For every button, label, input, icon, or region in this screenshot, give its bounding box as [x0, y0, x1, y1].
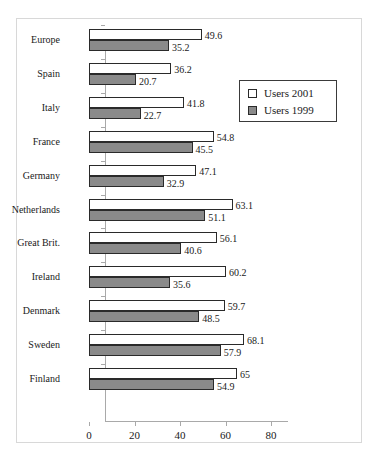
category-axis-tick: [101, 25, 105, 26]
category-label: Netherlands: [0, 204, 60, 216]
bar-users-2001: [89, 300, 225, 311]
legend-label-users-1999: Users 1999: [264, 104, 314, 116]
bar-value-label-users-1999: 57.9: [224, 347, 242, 358]
bar-value-label-users-1999: 20.7: [139, 76, 157, 87]
category-label: Spain: [0, 68, 60, 80]
bar-users-1999: [89, 243, 181, 254]
value-axis-tick: [89, 422, 90, 426]
bar-users-2001: [89, 368, 237, 379]
bar-value-label-users-1999: 35.2: [172, 42, 190, 53]
category-axis-tick: [101, 161, 105, 162]
bar-value-label-users-2001: 59.7: [228, 301, 246, 312]
value-axis-tick-label: 60: [206, 429, 246, 442]
bar-users-1999: [89, 345, 221, 356]
category-axis-tick: [101, 330, 105, 331]
value-axis-tick-label: 0: [69, 429, 109, 442]
value-axis-tick: [271, 422, 272, 426]
bar-users-1999: [89, 277, 170, 288]
value-axis-tick-label: 80: [251, 429, 291, 442]
value-axis-tick-label: 20: [115, 429, 155, 442]
chart-page: 020406080 EuropeSpainItalyFranceGermanyN…: [0, 0, 385, 467]
bar-value-label-users-2001: 65: [240, 369, 250, 380]
chart-legend: Users 2001 Users 1999: [239, 80, 337, 122]
bar-users-1999: [89, 311, 199, 322]
bar-value-label-users-1999: 51.1: [208, 212, 226, 223]
legend-label-users-2001: Users 2001: [264, 87, 314, 99]
legend-swatch-users-2001: [248, 89, 257, 98]
bar-value-label-users-2001: 63.1: [236, 200, 254, 211]
value-axis-tick: [135, 422, 136, 426]
legend-item-users-2001: Users 2001: [248, 86, 314, 100]
category-label: Finland: [0, 373, 60, 385]
bar-value-label-users-1999: 40.6: [184, 245, 202, 256]
category-axis-tick: [101, 262, 105, 263]
bar-value-label-users-1999: 48.5: [202, 313, 220, 324]
bar-value-label-users-2001: 47.1: [199, 166, 217, 177]
category-label: Great Brit.: [0, 237, 60, 249]
legend-swatch-users-1999: [248, 106, 257, 115]
bar-users-2001: [89, 199, 233, 210]
bar-users-2001: [89, 97, 184, 108]
bar-users-2001: [89, 334, 244, 345]
category-axis-tick: [101, 93, 105, 94]
category-label: Ireland: [0, 271, 60, 283]
category-axis-tick: [101, 59, 105, 60]
value-axis-tick: [226, 422, 227, 426]
category-label: Denmark: [0, 305, 60, 317]
category-axis-tick: [101, 195, 105, 196]
category-label: Europe: [0, 34, 60, 46]
category-label: France: [0, 136, 60, 148]
category-axis-tick: [101, 228, 105, 229]
bar-users-1999: [89, 176, 164, 187]
bar-users-2001: [89, 131, 214, 142]
bar-users-1999: [89, 40, 169, 51]
bar-users-1999: [89, 379, 214, 390]
bar-users-2001: [89, 232, 217, 243]
value-axis-tick: [180, 422, 181, 426]
value-axis-tick-label: 40: [160, 429, 200, 442]
chart-frame: 020406080 EuropeSpainItalyFranceGermanyN…: [16, 18, 362, 443]
bar-users-1999: [89, 142, 193, 153]
bar-users-2001: [89, 266, 226, 277]
bar-value-label-users-1999: 35.6: [173, 279, 191, 290]
bar-value-label-users-1999: 54.9: [217, 381, 235, 392]
category-axis-tick: [101, 296, 105, 297]
bar-value-label-users-1999: 32.9: [167, 178, 185, 189]
bar-value-label-users-1999: 22.7: [144, 110, 162, 121]
category-label: Sweden: [0, 339, 60, 351]
category-label: Italy: [0, 102, 60, 114]
bar-users-2001: [89, 29, 202, 40]
bar-value-label-users-2001: 41.8: [187, 98, 205, 109]
bar-users-1999: [89, 74, 136, 85]
category-axis-tick: [101, 364, 105, 365]
bar-users-1999: [89, 108, 141, 119]
value-axis-line: [105, 421, 288, 422]
bar-value-label-users-2001: 36.2: [174, 64, 192, 75]
bar-value-label-users-1999: 45.5: [196, 144, 214, 155]
bar-value-label-users-2001: 68.1: [247, 335, 265, 346]
bar-value-label-users-2001: 56.1: [220, 233, 238, 244]
category-label: Germany: [0, 170, 60, 182]
bar-users-2001: [89, 63, 171, 74]
bar-value-label-users-2001: 54.8: [217, 132, 235, 143]
bar-users-1999: [89, 210, 205, 221]
bar-users-2001: [89, 165, 196, 176]
bar-value-label-users-2001: 49.6: [205, 30, 223, 41]
legend-item-users-1999: Users 1999: [248, 103, 314, 117]
category-axis-tick: [101, 127, 105, 128]
bar-value-label-users-2001: 60.2: [229, 267, 247, 278]
